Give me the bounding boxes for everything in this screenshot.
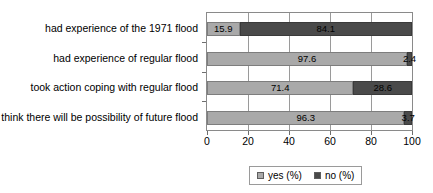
legend-item: yes (%) xyxy=(257,170,302,182)
y-axis-tick xyxy=(202,42,206,43)
bar-segment-no xyxy=(353,81,412,95)
chart-legend: yes (%)no (%) xyxy=(249,166,362,185)
bar-segment-yes xyxy=(207,81,353,95)
bar-segment-yes xyxy=(207,111,404,125)
x-axis-tick-label: 0 xyxy=(204,135,210,148)
bar-segment-no xyxy=(407,52,412,66)
bar-row: 15.984.1 xyxy=(207,22,412,36)
legend-label: yes (%) xyxy=(268,170,302,182)
bar-segment-no xyxy=(404,111,412,125)
category-label: think there will be possibility of futur… xyxy=(1,110,198,124)
plot-area: 15.984.197.62.471.428.696.33.7 xyxy=(206,12,413,131)
x-axis-tick-label: 80 xyxy=(365,135,377,148)
x-axis-tick-label: 60 xyxy=(324,135,336,148)
category-label: took action coping with regular flood xyxy=(30,80,198,94)
bar-segment-yes xyxy=(207,52,407,66)
bar-row: 97.62.4 xyxy=(207,52,412,66)
x-axis: 020406080100 xyxy=(206,131,413,151)
x-axis-tick-label: 40 xyxy=(283,135,295,148)
category-axis-labels: had experience of the 1971 floodhad expe… xyxy=(0,12,202,131)
y-axis-tick xyxy=(202,101,206,102)
legend-item: no (%) xyxy=(314,170,354,182)
stacked-bar-chart: had experience of the 1971 floodhad expe… xyxy=(0,0,433,193)
legend-label: no (%) xyxy=(325,170,354,182)
bar-segment-yes xyxy=(207,22,240,36)
x-axis-tick-label: 100 xyxy=(403,135,421,148)
bar-row: 96.33.7 xyxy=(207,111,412,125)
category-label: had experience of the 1971 flood xyxy=(45,21,198,35)
legend-swatch-yes xyxy=(257,172,264,179)
y-axis-tick xyxy=(202,72,206,73)
x-axis-tick-label: 20 xyxy=(242,135,254,148)
bar-segment-no xyxy=(240,22,412,36)
legend-swatch-no xyxy=(314,172,321,179)
bar-row: 71.428.6 xyxy=(207,81,412,95)
category-label: had experience of regular flood xyxy=(53,51,198,65)
